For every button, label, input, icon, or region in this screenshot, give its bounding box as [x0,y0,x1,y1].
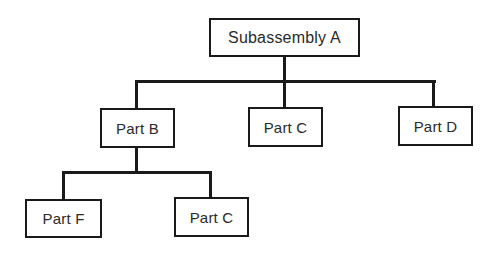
connector-part-b-down [135,147,138,174]
connector-to-part-d [432,80,435,107]
connector-level2-bus [62,171,212,174]
node-part-c: Part C [248,107,323,147]
connector-to-part-c [283,80,286,108]
node-part-d: Part D [398,106,473,146]
node-subassembly-a: Subassembly A [209,18,360,57]
product-structure-tree: Subassembly A Part B Part C Part D Part … [0,0,501,257]
node-part-f: Part F [25,199,102,238]
connector-to-part-f [62,171,65,200]
connector-to-part-b [135,80,138,109]
connector-root-down [283,56,286,83]
node-part-c-sub: Part C [174,197,249,237]
connector-to-part-c-sub [209,171,212,198]
node-part-b: Part B [100,108,175,148]
